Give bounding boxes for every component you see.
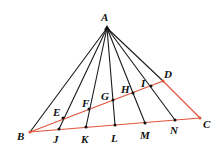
label-J: J	[52, 133, 59, 145]
label-C: C	[203, 118, 211, 130]
point-K-marker	[85, 126, 88, 129]
segment-AM	[107, 28, 145, 123]
black-line-group	[30, 28, 175, 132]
point-G-marker	[112, 99, 115, 102]
label-B: B	[16, 130, 24, 142]
label-I: I	[140, 77, 146, 89]
label-A: A	[100, 11, 108, 23]
point-M-marker	[144, 122, 147, 125]
segment-DC	[163, 81, 200, 118]
point-L-marker	[114, 124, 117, 127]
segment-AD	[107, 28, 163, 81]
label-K: K	[80, 133, 89, 145]
diagram-svg: ABCDEFGHIJKLMN	[0, 0, 224, 152]
point-A-marker	[104, 25, 110, 30]
point-I-marker	[150, 85, 153, 88]
geometry-diagram: ABCDEFGHIJKLMN	[0, 0, 224, 152]
label-N: N	[169, 124, 179, 136]
point-N-marker	[174, 119, 177, 122]
point-B-marker	[29, 131, 32, 134]
label-M: M	[139, 129, 151, 141]
label-G: G	[101, 90, 109, 102]
point-E-marker	[62, 117, 65, 120]
point-H-marker	[132, 92, 135, 95]
segment-AL	[107, 28, 115, 125]
label-L: L	[110, 132, 118, 144]
label-F: F	[81, 97, 90, 109]
label-E: E	[52, 106, 60, 118]
label-H: H	[120, 83, 130, 95]
point-J-marker	[58, 128, 61, 131]
segment-AJ	[59, 28, 107, 129]
label-D: D	[163, 68, 172, 80]
point-C-marker	[199, 117, 202, 120]
